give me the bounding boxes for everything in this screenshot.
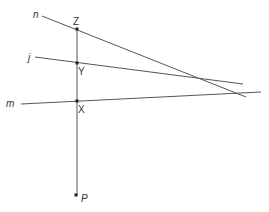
line-m [21, 92, 261, 104]
line-label-n: n [33, 9, 39, 20]
point-y [76, 62, 79, 65]
point-label-z: Z [73, 16, 79, 27]
point-p [75, 194, 78, 197]
diagram-svg: n j m Z Y X P [0, 0, 269, 212]
line-label-j: j [26, 52, 31, 63]
point-label-p: P [81, 193, 88, 204]
line-label-m: m [6, 98, 14, 109]
point-label-x: X [78, 104, 85, 115]
line-j [35, 57, 243, 84]
geometry-diagram: n j m Z Y X P [0, 0, 269, 212]
point-label-y: Y [78, 66, 85, 77]
line-n [42, 16, 246, 97]
point-z [76, 28, 79, 31]
point-x [76, 100, 79, 103]
